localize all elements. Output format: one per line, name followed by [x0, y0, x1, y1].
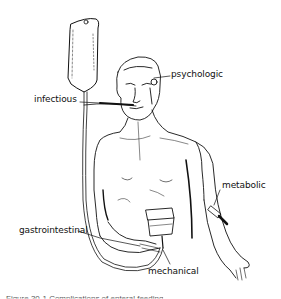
- patient-head: [117, 57, 161, 120]
- figure-caption: Figure 30-1 Complications of enteral fee…: [6, 294, 163, 299]
- patient-torso: [94, 110, 204, 238]
- feeding-bag-icon: [68, 19, 99, 92]
- label-psychologic: psychologic: [171, 69, 223, 79]
- patient-right-arm: [196, 142, 249, 280]
- label-mechanical: mechanical: [148, 266, 199, 276]
- label-metabolic: metabolic: [222, 180, 266, 190]
- feeding-tube: [83, 92, 163, 271]
- label-infectious: infectious: [34, 94, 77, 104]
- patient-left-arm: [100, 222, 160, 253]
- label-gastrointestinal: gastrointestinal: [19, 225, 88, 235]
- enteral-feeding-illustration: [0, 0, 281, 299]
